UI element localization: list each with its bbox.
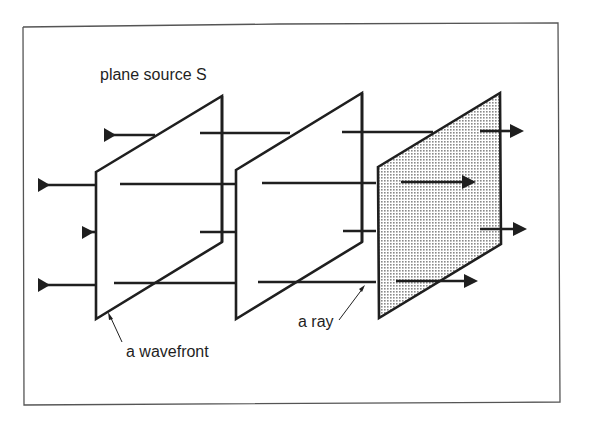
ray-label: a ray [298, 313, 334, 331]
ray-2-tail-icon [38, 178, 50, 192]
ray-3-tail-icon [82, 226, 94, 239]
ray-4-tail-icon [38, 278, 50, 292]
ray-4-arrowhead-icon [464, 274, 478, 288]
wavefront-label: a wavefront [126, 343, 209, 361]
plane-source-label: plane source S [100, 66, 207, 84]
wavefront-plane-1 [96, 96, 222, 319]
ray-1-tail-icon [104, 128, 116, 142]
ray-leader [339, 288, 363, 320]
wavefront-leader [110, 316, 122, 342]
wavefront-plane-3-shaded [378, 93, 501, 318]
ray-3-arrowhead-icon [513, 222, 527, 236]
wavefront-diagram [0, 0, 596, 425]
wavefront-plane-2 [236, 93, 362, 319]
ray-1-arrowhead-icon [510, 124, 524, 138]
